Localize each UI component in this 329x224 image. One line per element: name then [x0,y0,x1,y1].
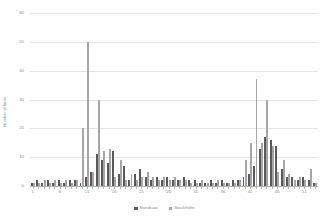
x-tickmark [49,187,50,189]
x-tick-label: 36 [221,190,226,194]
x-tickmark [299,187,300,189]
x-tickmark [120,187,121,189]
x-tick-label: 46 [275,190,280,194]
x-tickmark [201,187,202,189]
bar [114,177,116,186]
x-tickmark [217,187,218,189]
bar [196,183,198,186]
x-tick-label: 41 [248,190,253,194]
bar [185,180,187,186]
bar [234,183,236,186]
x-tick-label: 31 [193,190,198,194]
x-tickmark [38,187,39,189]
bar [310,169,312,186]
x-tickmark [98,187,99,189]
bar [299,177,301,186]
bar [288,174,290,186]
y-axis-tick-labels: 0102030405060 [0,13,28,186]
y-tick-label: 40 [19,69,24,73]
bar [76,180,78,186]
bar [33,183,35,186]
x-tickmark [163,187,164,189]
bar [245,160,247,186]
bar [71,183,73,186]
bar [201,180,203,186]
bar [98,100,100,187]
bar [223,183,225,186]
bar [207,183,209,186]
x-tickmark [44,187,45,189]
bar [38,183,40,186]
x-tickmark [245,187,246,189]
x-tickmark [239,187,240,189]
y-tick-label: 0 [22,184,24,188]
x-tickmark [54,187,55,189]
x-tickmark [207,187,208,189]
gridline [30,100,318,101]
bar [217,180,219,186]
x-tick-label: 51 [302,190,307,194]
bar [228,183,230,186]
x-tickmark [82,187,83,189]
bar [44,180,46,186]
x-tickmark [190,187,191,189]
x-tickmark [261,187,262,189]
legend-item[interactable]: Bandsaw [134,206,157,210]
x-tickmark [131,187,132,189]
gridline [30,42,318,43]
x-tickmark [272,187,273,189]
bar [261,143,263,186]
x-tickmark [288,187,289,189]
bar [49,183,51,186]
bar [163,177,165,186]
x-tickmark [212,187,213,189]
bar [212,183,214,186]
bar [87,42,89,186]
y-tick-label: 10 [19,155,24,159]
y-tick-label: 60 [19,11,24,15]
bar [131,174,133,186]
x-tick-label: 6 [59,190,61,194]
plot-area [30,13,318,186]
x-axis-tick-labels: 16111621263136414651 [30,187,318,197]
x-tickmark [234,187,235,189]
x-tickmark [256,187,257,189]
chart-legend: BandsawStockholm [0,206,329,210]
x-tickmark [310,187,311,189]
x-tickmark [109,187,110,189]
bar [136,180,138,186]
legend-item[interactable]: Stockholm [169,206,195,210]
x-tickmark [65,187,66,189]
x-tickmark [152,187,153,189]
bar [120,160,122,186]
bar [82,128,84,186]
x-tick-label: 11 [85,190,89,194]
bar [147,172,149,186]
bar [65,180,67,186]
legend-swatch-icon [134,207,137,210]
bar-chart: Number of birds 0102030405060 1611162126… [0,0,329,224]
bar [152,177,154,186]
x-tickmark [179,187,180,189]
bar [283,160,285,186]
x-tickmark [283,187,284,189]
x-tickmark [125,187,126,189]
x-tickmark [228,187,229,189]
bar [103,151,105,186]
y-tick-label: 30 [19,97,24,101]
x-tickmark [294,187,295,189]
x-tick-label: 26 [166,190,171,194]
y-tick-label: 50 [19,40,24,44]
bar [315,183,317,186]
x-tickmark [174,187,175,189]
bar [169,180,171,186]
bar [239,180,241,186]
x-tickmark [185,187,186,189]
legend-label: Bandsaw [140,206,158,210]
x-tickmark [76,187,77,189]
bar [174,177,176,186]
bar [92,172,94,186]
y-tick-label: 20 [19,126,24,130]
x-tickmark [266,187,267,189]
x-tick-label: 1 [32,190,34,194]
